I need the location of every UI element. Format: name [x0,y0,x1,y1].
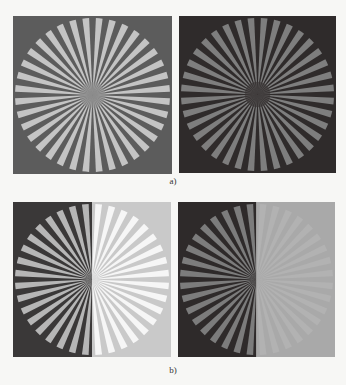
star-panel-b-left [13,202,171,357]
star-panel-a-left [13,16,172,174]
siemens-star-icon [13,16,172,174]
siemens-star-icon [179,16,336,173]
siemens-star-icon [13,202,171,357]
siemens-star-icon [178,202,335,357]
caption-b: b) [153,365,193,375]
caption-a: a) [153,176,193,186]
star-panel-a-right [179,16,336,173]
star-panel-b-right [178,202,335,357]
